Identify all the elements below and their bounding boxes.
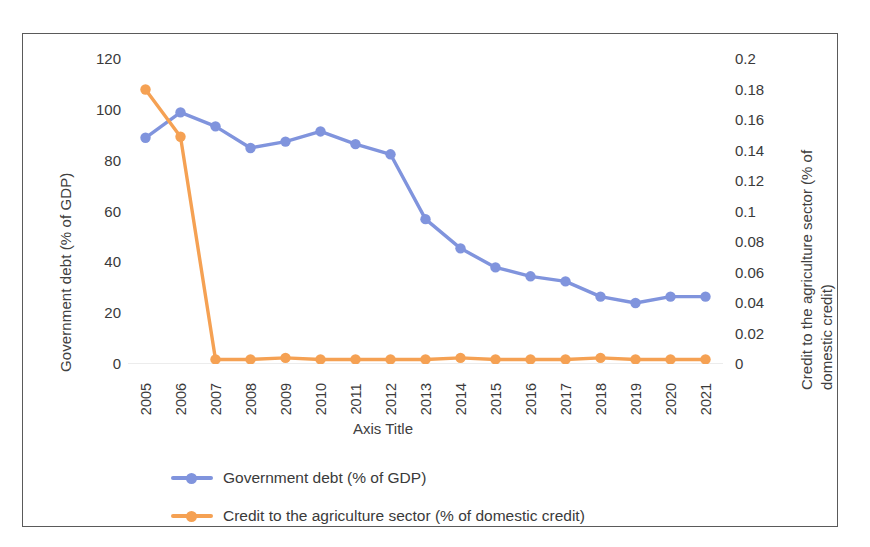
series-marker [175, 107, 185, 117]
x-axis-tick-label: 2005 [138, 376, 154, 422]
series-marker [385, 149, 395, 159]
y-axis-right-tick-label: 0.04 [735, 295, 795, 310]
series-line [146, 112, 706, 303]
chart-frame: Government debt (% of GDP) Credit to the… [22, 33, 838, 527]
legend-label: Credit to the agriculture sector (% of d… [223, 507, 585, 525]
series-marker [490, 262, 500, 272]
x-axis-tick-label: 2011 [348, 376, 364, 422]
y-axis-right-tick-label: 0.02 [735, 326, 795, 341]
plot-area [128, 59, 723, 364]
y-axis-right-title: Credit to the agriculture sector (% of d… [797, 90, 837, 390]
series-marker [210, 354, 220, 364]
series-marker [560, 276, 570, 286]
y-axis-right-tick-label: 0.2 [735, 51, 795, 66]
series-line [146, 90, 706, 360]
x-axis-tick-label: 2016 [523, 376, 539, 422]
series-marker [560, 354, 570, 364]
y-axis-left-tick-label: 120 [75, 51, 121, 66]
x-axis-tick-label: 2010 [313, 376, 329, 422]
series-marker [595, 291, 605, 301]
series-marker [420, 354, 430, 364]
x-axis-tick-label: 2013 [418, 376, 434, 422]
x-axis-tick-label: 2019 [628, 376, 644, 422]
series-marker [630, 298, 640, 308]
series-marker [315, 354, 325, 364]
chart-legend: Government debt (% of GDP)Credit to the … [23, 459, 839, 535]
y-axis-right-tick-label: 0.06 [735, 265, 795, 280]
y-axis-right-tick-label: 0.16 [735, 112, 795, 127]
x-axis-tick-label: 2015 [488, 376, 504, 422]
y-axis-left-tick-label: 60 [75, 204, 121, 219]
x-axis-tick-label: 2020 [663, 376, 679, 422]
x-axis-tick-label: 2021 [698, 376, 714, 422]
y-axis-left-tick-label: 40 [75, 254, 121, 269]
y-axis-right-tick-label: 0.1 [735, 204, 795, 219]
x-axis-tick-label: 2008 [243, 376, 259, 422]
x-axis-tick-label: 2017 [558, 376, 574, 422]
series-marker [525, 354, 535, 364]
y-axis-right-tick-label: 0.14 [735, 143, 795, 158]
x-axis-tick-label: 2006 [173, 376, 189, 422]
series-marker [420, 214, 430, 224]
series-marker [315, 126, 325, 136]
y-axis-right-tick-label: 0 [735, 356, 795, 371]
y-axis-left-tick-label: 20 [75, 305, 121, 320]
legend-swatch-icon [171, 470, 213, 486]
series-plot [128, 59, 723, 364]
series-marker [665, 354, 675, 364]
y-axis-right-tick-label: 0.18 [735, 82, 795, 97]
series-marker [245, 354, 255, 364]
x-axis-tick-label: 2009 [278, 376, 294, 422]
legend-item[interactable]: Government debt (% of GDP) [23, 459, 839, 497]
series-marker [140, 84, 150, 94]
y-axis-left-title: Government debt (% of GDP) [57, 173, 74, 372]
legend-label: Government debt (% of GDP) [223, 469, 426, 487]
series-marker [210, 121, 220, 131]
series-marker [595, 353, 605, 363]
y-axis-left-tick-label: 100 [75, 102, 121, 117]
series-marker [140, 133, 150, 143]
series-marker [350, 139, 360, 149]
data-series [140, 107, 710, 308]
x-axis-tick-label: 2007 [208, 376, 224, 422]
series-marker [630, 354, 640, 364]
x-axis-tick-label: 2012 [383, 376, 399, 422]
series-marker [280, 136, 290, 146]
y-axis-right-tick-label: 0.12 [735, 173, 795, 188]
series-marker [350, 354, 360, 364]
x-axis-title: Axis Title [23, 420, 743, 437]
legend-swatch-icon [171, 508, 213, 524]
series-marker [525, 271, 535, 281]
series-marker [280, 353, 290, 363]
series-marker [455, 353, 465, 363]
series-marker [700, 354, 710, 364]
series-marker [665, 291, 675, 301]
series-marker [455, 243, 465, 253]
series-marker [700, 291, 710, 301]
y-axis-left-tick-label: 0 [75, 356, 121, 371]
legend-item[interactable]: Credit to the agriculture sector (% of d… [23, 497, 839, 535]
series-marker [175, 132, 185, 142]
x-axis-tick-label: 2018 [593, 376, 609, 422]
series-marker [385, 354, 395, 364]
y-axis-left-tick-label: 80 [75, 153, 121, 168]
x-axis-tick-label: 2014 [453, 376, 469, 422]
y-axis-right-tick-label: 0.08 [735, 234, 795, 249]
series-marker [490, 354, 500, 364]
data-series-layer [140, 84, 710, 364]
series-marker [245, 143, 255, 153]
